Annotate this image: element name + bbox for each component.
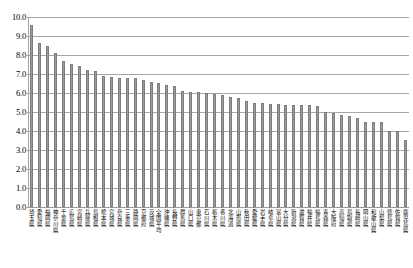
x-axis-label: 長崎県 (353, 209, 361, 227)
y-axis-tick-label-0: 0.0 (0, 203, 26, 212)
bar (78, 66, 81, 207)
bar (372, 122, 375, 208)
x-axis-label: 京都府 (139, 209, 147, 227)
bar (261, 103, 264, 207)
x-axis-label: 山梨県 (377, 209, 385, 227)
bar (110, 77, 113, 207)
x-axis-label: 岡山県 (361, 209, 369, 227)
x-axis-label: 沖縄県 (163, 209, 171, 227)
bar (38, 43, 41, 207)
x-axis-label: 鳥取県 (346, 209, 354, 227)
x-axis-label: 秋田県 (242, 209, 250, 227)
x-axis-label: 和歌山県 (369, 209, 377, 233)
bar (197, 92, 200, 207)
bar (316, 106, 319, 207)
y-axis-tick (25, 207, 28, 208)
x-axis-label: 大分県 (282, 209, 290, 227)
bar (292, 105, 295, 207)
bar (70, 64, 73, 207)
bar (284, 105, 287, 207)
x-axis-label: 神奈川県 (52, 209, 60, 233)
x-axis-label: 大阪府 (330, 209, 338, 227)
bar (388, 131, 391, 207)
bar (126, 78, 129, 207)
bar (269, 104, 272, 207)
bar (237, 98, 240, 207)
bar-series (28, 17, 409, 207)
bar (340, 115, 343, 207)
bar (277, 104, 280, 207)
y-axis-tick-label-8: 8.0 (0, 51, 26, 60)
x-axis-label: 石川県 (203, 209, 211, 227)
bar (229, 97, 232, 207)
y-axis-tick (25, 131, 28, 132)
y-axis-tick (25, 74, 28, 75)
x-axis-label: 兵庫県 (84, 209, 92, 227)
bar (30, 25, 33, 207)
gridline-0.0 (28, 207, 409, 208)
bar (404, 140, 407, 207)
bar (189, 92, 192, 207)
y-axis-tick (25, 188, 28, 189)
bar (118, 78, 121, 207)
y-axis-tick-label-10: 10.0 (0, 13, 26, 22)
x-axis-label: 滋賀県 (298, 209, 306, 227)
x-axis-label: 群馬県 (179, 209, 187, 227)
bar (396, 131, 399, 207)
bar (181, 91, 184, 207)
x-axis-label: 富山県 (274, 209, 282, 227)
y-axis-tick-label-4: 4.0 (0, 127, 26, 136)
x-axis-label: 奈良県 (115, 209, 123, 227)
x-axis-label: 岐阜県 (266, 209, 274, 227)
x-axis-label: 千葉県 (60, 209, 68, 227)
y-axis-tick-label-2: 2.0 (0, 165, 26, 174)
bar (46, 46, 49, 207)
y-axis-tick (25, 112, 28, 113)
bar (150, 82, 153, 207)
x-axis-label: 三重県 (123, 209, 131, 227)
x-axis-label: 長野県 (171, 209, 179, 227)
x-axis-label: 北海道 (226, 209, 234, 227)
y-axis-tick (25, 55, 28, 56)
y-axis-tick-label-5: 5.0 (0, 108, 26, 117)
bar (245, 101, 248, 207)
y-axis-tick-label-6: 6.0 (0, 89, 26, 98)
bar (54, 53, 57, 207)
bar (165, 85, 168, 207)
x-axis-label: 広島県 (68, 209, 76, 227)
x-axis-label: 宮城県 (107, 209, 115, 227)
y-axis-tick-label-1: 1.0 (0, 184, 26, 193)
y-axis-tick-label-7: 7.0 (0, 70, 26, 79)
x-axis-label: 愛媛県 (250, 209, 258, 227)
bar (205, 93, 208, 207)
bar (308, 105, 311, 207)
x-axis-label: 青森県 (322, 209, 330, 227)
bar (102, 76, 105, 207)
x-axis-label: 鹿児島県 (401, 209, 409, 233)
x-axis-label: 茨城県 (147, 209, 155, 227)
x-axis-label: 香川県 (219, 209, 227, 227)
bar (332, 113, 335, 207)
x-axis-label: 埼玉県 (28, 209, 36, 227)
x-axis-label: 福島県 (314, 209, 322, 227)
x-axis-label: 全国平均 (155, 209, 163, 233)
x-axis-label: 熊本県 (99, 209, 107, 227)
bar (62, 61, 65, 207)
x-axis-label: 高知県 (338, 209, 346, 227)
x-axis-label: 東京都 (195, 209, 203, 227)
y-axis-labels: 10.0 9.0 8.0 7.0 6.0 5.0 4.0 3.0 2.0 1.0… (0, 0, 26, 268)
y-axis-tick (25, 169, 28, 170)
x-axis-label: 宮崎県 (76, 209, 84, 227)
bar (348, 116, 351, 207)
y-axis-tick-label-3: 3.0 (0, 146, 26, 155)
bar (364, 122, 367, 208)
x-axis-labels: 埼玉県愛知県福岡県神奈川県千葉県広島県宮崎県兵庫県島根県熊本県宮城県奈良県三重県… (28, 209, 409, 268)
y-axis-tick-label-9: 9.0 (0, 32, 26, 41)
bar (356, 118, 359, 207)
y-axis-tick (25, 93, 28, 94)
y-axis-tick (25, 150, 28, 151)
x-axis-label: 新潟県 (290, 209, 298, 227)
x-axis-label: 島根県 (92, 209, 100, 227)
x-axis-label: 山口県 (187, 209, 195, 227)
bar (173, 86, 176, 207)
